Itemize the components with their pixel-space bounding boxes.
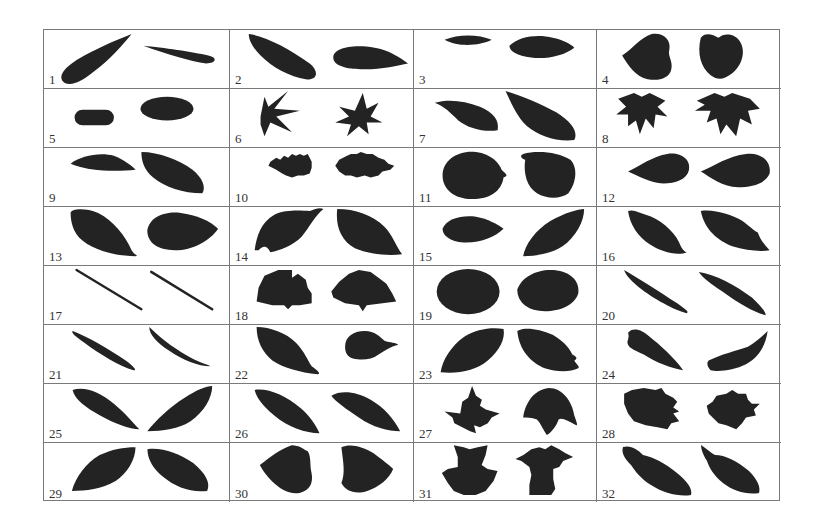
species-label: 30 [235,486,248,502]
species-label: 26 [235,426,248,442]
species-label: 32 [602,486,615,502]
leaf-cell-14: 14 [230,207,414,266]
leaf-cell-6: 6 [230,89,414,148]
leaf-pair-icon [44,384,229,442]
leaf-cell-9: 9 [44,148,230,207]
leaf-pair-icon [414,384,596,442]
species-label: 27 [419,426,432,442]
species-label: 16 [602,249,615,265]
leaf-pair-icon [597,325,781,383]
species-label: 28 [602,426,615,442]
species-label: 3 [419,72,426,88]
species-label: 31 [419,486,432,502]
species-label: 11 [419,190,432,206]
leaf-pair-icon [414,443,596,502]
leaf-cell-10: 10 [230,148,414,207]
species-label: 2 [235,72,242,88]
species-label: 13 [49,249,62,265]
leaf-pair-icon [414,325,596,383]
leaf-pair-icon [44,325,229,383]
species-label: 20 [602,308,615,324]
leaf-cell-5: 5 [44,89,230,148]
leaf-cell-23: 23 [414,325,597,384]
leaf-pair-icon [230,148,413,206]
leaf-cell-25: 25 [44,384,230,443]
species-label: 25 [49,426,62,442]
species-label: 4 [602,72,609,88]
leaf-cell-19: 19 [414,266,597,325]
species-label: 29 [49,486,62,502]
leaf-cell-17: 17 [44,266,230,325]
leaf-cell-11: 11 [414,148,597,207]
species-label: 21 [49,367,62,383]
leaf-cell-30: 30 [230,443,414,502]
species-label: 17 [49,308,62,324]
leaf-pair-icon [414,30,596,88]
leaf-cell-3: 3 [414,30,597,89]
leaf-pair-icon [597,443,781,502]
leaf-pair-icon [597,207,781,265]
species-label: 23 [419,367,432,383]
leaf-pair-icon [597,89,781,147]
leaf-cell-16: 16 [597,207,781,266]
leaf-pair-icon [44,30,229,88]
leaf-cell-24: 24 [597,325,781,384]
leaf-pair-icon [44,207,229,265]
leaf-cell-21: 21 [44,325,230,384]
leaf-pair-icon [597,266,781,324]
leaf-pair-icon [230,89,413,147]
leaf-pair-icon [230,207,413,265]
leaf-pair-icon [44,266,229,324]
leaf-pair-icon [230,325,413,383]
leaf-cell-1: 1 [44,30,230,89]
leaf-cell-28: 28 [597,384,781,443]
species-label: 24 [602,367,615,383]
species-label: 22 [235,367,248,383]
species-label: 18 [235,308,248,324]
species-label: 6 [235,131,242,147]
leaf-pair-icon [44,89,229,147]
species-label: 8 [602,131,609,147]
leaf-cell-32: 32 [597,443,781,502]
leaf-cell-8: 8 [597,89,781,148]
leaf-specimen-grid: 1 2 3 4 5 6 [43,29,780,501]
leaf-pair-icon [597,384,781,442]
leaf-pair-icon [414,266,596,324]
leaf-cell-22: 22 [230,325,414,384]
leaf-pair-icon [44,148,229,206]
leaf-pair-icon [44,443,229,502]
leaf-cell-27: 27 [414,384,597,443]
leaf-cell-29: 29 [44,443,230,502]
species-label: 19 [419,308,432,324]
species-label: 5 [49,131,56,147]
leaf-pair-icon [597,30,781,88]
leaf-pair-icon [230,384,413,442]
species-label: 14 [235,249,248,265]
leaf-cell-13: 13 [44,207,230,266]
leaf-cell-20: 20 [597,266,781,325]
species-label: 12 [602,190,615,206]
species-label: 1 [49,72,56,88]
leaf-cell-12: 12 [597,148,781,207]
species-label: 15 [419,249,432,265]
leaf-cell-7: 7 [414,89,597,148]
species-label: 10 [235,190,248,206]
leaf-cell-4: 4 [597,30,781,89]
leaf-pair-icon [230,443,413,502]
leaf-cell-26: 26 [230,384,414,443]
leaf-cell-31: 31 [414,443,597,502]
species-label: 9 [49,190,56,206]
leaf-pair-icon [414,89,596,147]
leaf-cell-2: 2 [230,30,414,89]
leaf-pair-icon [414,207,596,265]
leaf-pair-icon [230,266,413,324]
leaf-cell-15: 15 [414,207,597,266]
leaf-cell-18: 18 [230,266,414,325]
species-label: 7 [419,131,426,147]
leaf-pair-icon [230,30,413,88]
leaf-pair-icon [597,148,781,206]
leaf-pair-icon [414,148,596,206]
